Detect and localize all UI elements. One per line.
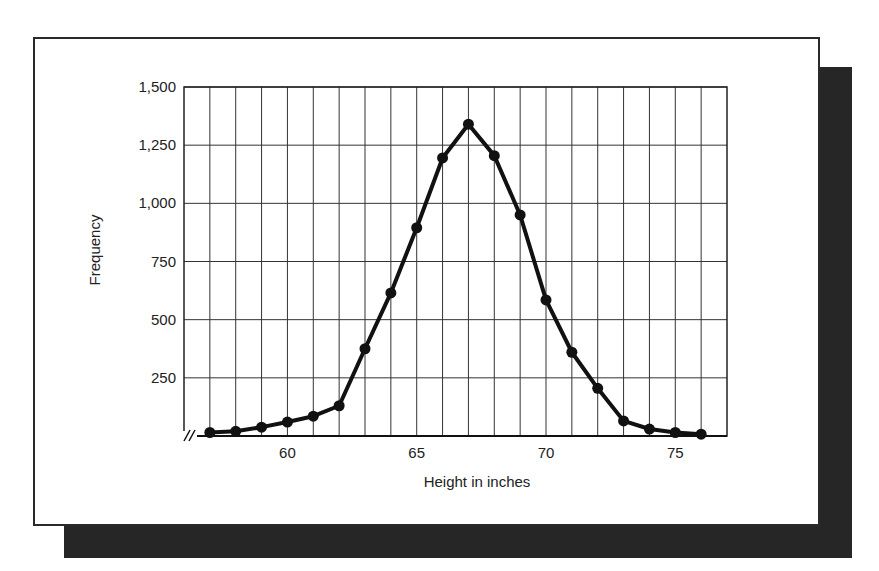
y-axis-tick-labels: 2505007501,0001,2501,500 <box>138 78 176 386</box>
data-point <box>618 415 629 426</box>
y-tick-label: 1,500 <box>138 78 176 95</box>
x-axis-tick-labels: 60657075 <box>279 444 684 461</box>
y-tick-label: 1,250 <box>138 136 176 153</box>
frequency-line <box>210 124 701 434</box>
y-tick-label: 750 <box>151 253 176 270</box>
x-tick-label: 60 <box>279 444 296 461</box>
data-point <box>308 411 319 422</box>
data-point-markers <box>204 119 706 440</box>
data-point <box>437 152 448 163</box>
data-point <box>489 150 500 161</box>
data-point <box>411 222 422 233</box>
data-point <box>385 287 396 298</box>
x-tick-label: 70 <box>538 444 555 461</box>
x-axis-title: Height in inches <box>424 473 531 490</box>
data-point <box>334 400 345 411</box>
y-tick-label: 250 <box>151 369 176 386</box>
data-point <box>592 383 603 394</box>
x-tick-label: 65 <box>408 444 425 461</box>
data-point <box>256 422 267 433</box>
data-point <box>282 417 293 428</box>
data-point <box>204 427 215 438</box>
data-point <box>463 119 474 130</box>
x-tick-label: 75 <box>667 444 684 461</box>
data-point <box>541 294 552 305</box>
data-point <box>515 209 526 220</box>
y-axis-title: Frequency <box>86 214 103 285</box>
data-point <box>644 424 655 435</box>
y-tick-label: 500 <box>151 311 176 328</box>
y-tick-label: 1,000 <box>138 194 176 211</box>
data-point <box>566 347 577 358</box>
line-chart: 2505007501,0001,2501,500 60657075 Height… <box>0 0 879 571</box>
data-point <box>360 343 371 354</box>
axis-break-icon <box>183 430 197 441</box>
data-point <box>670 427 681 438</box>
data-point <box>230 426 241 437</box>
data-point <box>696 429 707 440</box>
